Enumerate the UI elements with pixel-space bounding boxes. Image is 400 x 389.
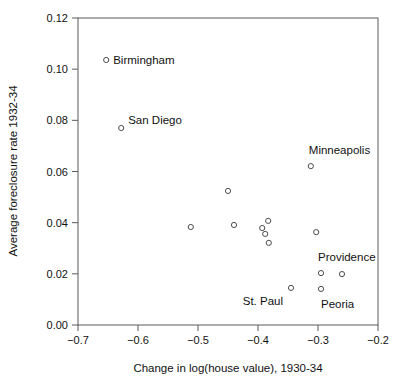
data-point-label: St. Paul — [243, 295, 283, 307]
data-point-label: Peoria — [321, 298, 355, 310]
x-tick-label: −0.6 — [127, 334, 149, 346]
y-tick-label: 0.00 — [47, 319, 68, 331]
data-point-label: San Diego — [128, 114, 182, 126]
y-tick-label: 0.06 — [47, 166, 68, 178]
y-axis-label: Average foreclosure rate 1932-34 — [7, 85, 19, 257]
y-tick-label: 0.10 — [47, 63, 68, 75]
scatter-plot-figure: −0.7−0.6−0.5−0.4−0.3−0.2 0.000.020.040.0… — [0, 0, 400, 389]
x-axis-label: Change in log(house value), 1930-34 — [133, 362, 323, 374]
y-tick-label: 0.02 — [47, 268, 68, 280]
data-point-label: Minneapolis — [309, 144, 371, 156]
x-tick-label: −0.2 — [367, 334, 389, 346]
y-tick-label: 0.12 — [47, 12, 68, 24]
x-tick-label: −0.5 — [187, 334, 209, 346]
x-tick-label: −0.4 — [247, 334, 269, 346]
y-tick-label: 0.04 — [47, 217, 68, 229]
data-point-label: Providence — [318, 251, 376, 263]
data-point-label: Birmingham — [113, 54, 174, 66]
y-tick-label: 0.08 — [47, 114, 68, 126]
x-tick-label: −0.3 — [307, 334, 329, 346]
chart-canvas: −0.7−0.6−0.5−0.4−0.3−0.2 0.000.020.040.0… — [0, 0, 400, 389]
x-tick-label: −0.7 — [67, 334, 89, 346]
